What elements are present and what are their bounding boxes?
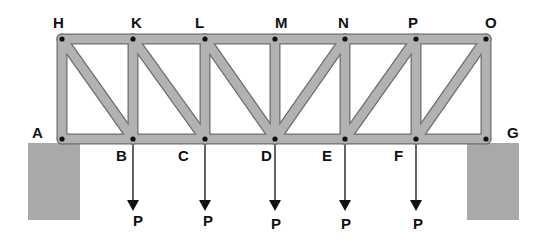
node-label-C: C <box>178 147 189 164</box>
load-arrow-F: P <box>410 145 423 232</box>
supports <box>28 143 519 220</box>
pin-M <box>272 36 277 41</box>
load-arrow-E: P <box>339 145 351 232</box>
member-L-D <box>205 39 275 139</box>
arrow-down-icon <box>127 200 139 211</box>
node-label-M: M <box>275 14 288 31</box>
arrow-down-icon <box>410 200 422 211</box>
pin-B <box>130 136 135 141</box>
node-label-N: N <box>338 14 349 31</box>
arrow-down-icon <box>339 200 351 211</box>
pin-F <box>413 136 418 141</box>
node-label-D: D <box>261 147 272 164</box>
truss-diagram: PPPPP HKLMNPOAGBCDEF <box>0 0 547 250</box>
load-label-F: P <box>413 215 423 232</box>
member-K-C <box>133 39 205 139</box>
load-label-D: P <box>271 215 281 232</box>
pin-L <box>202 36 207 41</box>
load-arrow-C: P <box>199 145 213 229</box>
node-label-H: H <box>53 14 64 31</box>
member-D-N <box>275 39 345 139</box>
node-label-F: F <box>394 147 403 164</box>
truss-members <box>62 39 486 139</box>
node-label-K: K <box>131 14 142 31</box>
node-label-A: A <box>32 124 43 141</box>
pin-E <box>342 136 347 141</box>
node-label-E: E <box>322 147 332 164</box>
applied-loads: PPPPP <box>127 145 423 232</box>
member-F-O <box>416 39 486 139</box>
pin-N <box>342 36 347 41</box>
load-arrow-B: P <box>127 145 143 229</box>
pin-D <box>272 136 277 141</box>
right-support <box>467 143 519 220</box>
member-H-B <box>62 39 133 139</box>
node-label-O: O <box>485 14 497 31</box>
pin-O <box>483 36 488 41</box>
load-label-E: P <box>341 215 351 232</box>
arrow-down-icon <box>269 200 281 211</box>
pin-P <box>413 36 418 41</box>
member-E-P <box>345 39 416 139</box>
node-label-G: G <box>507 124 519 141</box>
node-label-B: B <box>116 147 127 164</box>
node-label-L: L <box>195 14 204 31</box>
arrow-down-icon <box>199 200 211 211</box>
pin-C <box>202 136 207 141</box>
pin-K <box>130 36 135 41</box>
left-support <box>28 143 80 220</box>
load-label-C: P <box>203 212 213 229</box>
pin-A <box>59 136 64 141</box>
pin-G <box>483 136 488 141</box>
pin-H <box>59 36 64 41</box>
node-label-P: P <box>408 14 418 31</box>
load-label-B: P <box>133 212 143 229</box>
